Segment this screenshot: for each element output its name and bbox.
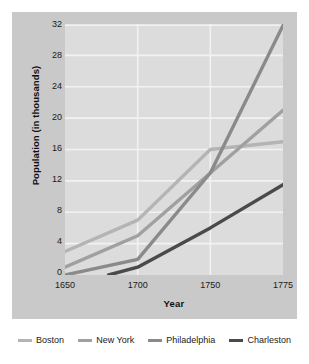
population-line-chart-figure: 32 28 24 20 16 12 8 4 0 Population (in t… bbox=[0, 0, 309, 364]
y-tick-32: 32 bbox=[36, 20, 62, 29]
x-tick-1650: 1650 bbox=[45, 280, 85, 290]
chart-legend: Boston New York Philadelphia Charleston bbox=[12, 332, 297, 348]
y-axis-title: Population (in thousands) bbox=[30, 46, 41, 206]
plot-area bbox=[65, 24, 283, 275]
legend-label-philadelphia: Philadelphia bbox=[166, 335, 215, 345]
horizontal-gridlines bbox=[65, 25, 283, 243]
legend-swatch-icon-new-york bbox=[78, 339, 92, 342]
plot-svg bbox=[65, 24, 283, 275]
series-line-boston bbox=[65, 142, 283, 252]
legend-label-boston: Boston bbox=[36, 335, 64, 345]
x-axis-title: Year bbox=[65, 298, 283, 309]
x-tick-1750: 1750 bbox=[190, 280, 230, 290]
legend-swatch-icon-charleston bbox=[229, 339, 243, 342]
x-tick-1775: 1775 bbox=[263, 280, 303, 290]
legend-item-new-york[interactable]: New York bbox=[78, 335, 134, 345]
legend-item-charleston[interactable]: Charleston bbox=[229, 335, 291, 345]
legend-swatch-icon-boston bbox=[18, 339, 32, 342]
legend-item-philadelphia[interactable]: Philadelphia bbox=[148, 335, 215, 345]
y-tick-8: 8 bbox=[36, 206, 62, 215]
x-tick-1700: 1700 bbox=[118, 280, 158, 290]
legend-label-charleston: Charleston bbox=[247, 335, 291, 345]
chart-card: 32 28 24 20 16 12 8 4 0 Population (in t… bbox=[12, 12, 297, 319]
legend-item-boston[interactable]: Boston bbox=[18, 335, 64, 345]
legend-swatch-icon-philadelphia bbox=[148, 339, 162, 342]
y-tick-0: 0 bbox=[36, 268, 62, 277]
x-axis-tick-labels: 1650 1700 1750 1775 bbox=[65, 280, 295, 294]
legend-label-new-york: New York bbox=[96, 335, 134, 345]
y-tick-4: 4 bbox=[36, 237, 62, 246]
